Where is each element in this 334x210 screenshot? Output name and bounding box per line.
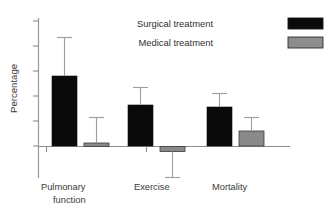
bar-group-pulmonary-function — [47, 37, 110, 152]
bar-medical-mortality — [239, 131, 264, 146]
y-axis-ticks — [33, 21, 39, 146]
bar-surgical-pulmonary-function — [52, 76, 77, 146]
chart-legend: Surgical treatment Medical treatment — [137, 18, 323, 48]
bar-group-exercise — [128, 87, 185, 178]
x-axis-label-mortality: Mortality — [212, 182, 247, 192]
bar-group-mortality — [207, 93, 264, 146]
x-axis-label-exercise: Exercise — [134, 182, 170, 192]
chart-canvas: Percentage Pulmonary function Exercise M… — [0, 0, 334, 210]
bar-surgical-exercise — [128, 105, 153, 146]
legend-label-medical-treatment: Medical treatment — [138, 37, 213, 48]
legend-swatch-medical-treatment — [288, 37, 323, 48]
bar-surgical-mortality — [207, 107, 232, 146]
bar-medical-pulmonary-function — [84, 143, 109, 147]
y-axis-title: Percentage — [8, 64, 19, 113]
bar-chart-figure: Percentage Pulmonary function Exercise M… — [0, 0, 334, 210]
legend-label-surgical-treatment: Surgical treatment — [137, 18, 213, 29]
x-axis-label-pulmonary-function-line2: function — [53, 195, 86, 205]
x-axis-label-pulmonary-function-line1: Pulmonary — [41, 182, 86, 192]
legend-swatch-surgical-treatment — [288, 18, 323, 29]
bar-medical-exercise — [160, 147, 185, 152]
